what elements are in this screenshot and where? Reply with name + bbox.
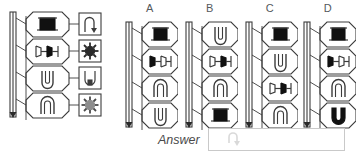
option-b-cell-1 — [202, 49, 238, 74]
stem-panel — [6, 8, 114, 126]
option-d-cell-2 — [320, 76, 356, 101]
vertical-slider[interactable] — [304, 22, 311, 128]
shape-double-spool-left-filled — [150, 56, 171, 67]
option-a-cell-1 — [142, 49, 178, 74]
shape-top-hat-filled — [271, 28, 290, 40]
answer-label: Answer — [158, 133, 200, 147]
shape-top-hat-filled — [37, 18, 58, 30]
shape-u-open-up — [42, 71, 53, 89]
option-b-label: B — [182, 2, 238, 14]
hook-arrow-icon — [79, 13, 101, 35]
shape-v-bold-filled — [332, 108, 345, 125]
option-c[interactable]: C — [242, 0, 298, 126]
mouse-pointer-icon — [225, 131, 245, 149]
stem-cell-0 — [26, 12, 101, 37]
stem-cell-3 — [26, 93, 101, 118]
shape-double-spool-right-filled — [210, 56, 231, 67]
option-d-cell-3 — [320, 103, 356, 128]
option-b-cell-2 — [202, 76, 238, 101]
shape-u-open-up — [155, 108, 166, 126]
shape-arch-open-down — [154, 80, 167, 98]
shape-u-open-up — [275, 54, 286, 72]
shape-double-spool-left-filled — [328, 56, 349, 67]
option-a-cell-0 — [142, 22, 178, 47]
option-b-cell-3 — [202, 103, 238, 128]
shape-arch-open-down — [214, 80, 227, 98]
shape-top-hat-filled — [211, 109, 230, 121]
stem-cell-1 — [26, 39, 101, 64]
option-c-cell-3 — [262, 103, 298, 128]
shape-u-open-up — [215, 27, 226, 45]
u-in-square-icon — [79, 67, 101, 89]
shape-top-hat-filled — [329, 28, 348, 40]
sunburst-grey-icon — [79, 94, 101, 116]
sunburst-dark-icon — [79, 40, 101, 62]
answer-row: Answer — [158, 128, 345, 151]
shape-double-spool-half-filled — [36, 46, 58, 57]
option-b[interactable]: B — [182, 0, 238, 126]
option-d-cell-1 — [320, 49, 356, 74]
option-c-cell-1 — [262, 49, 298, 74]
shape-arch-open-down — [332, 80, 345, 98]
vertical-slider[interactable] — [10, 12, 17, 118]
vertical-slider[interactable] — [126, 22, 133, 128]
shape-arch-open-down — [41, 97, 54, 115]
option-a-label: A — [122, 2, 178, 14]
option-d-label: D — [300, 2, 356, 14]
stem-cell-2 — [26, 66, 101, 91]
option-c-cell-0 — [262, 22, 298, 47]
shape-double-spool-right-filled — [270, 83, 291, 94]
option-c-cell-2 — [262, 76, 298, 101]
option-a[interactable]: A — [122, 0, 178, 126]
vertical-slider[interactable] — [186, 22, 193, 128]
answer-input[interactable] — [208, 128, 345, 151]
shape-top-hat-filled — [151, 28, 170, 40]
option-a-cell-2 — [142, 76, 178, 101]
option-d-cell-0 — [320, 22, 356, 47]
shape-arch-open-down — [274, 107, 287, 125]
option-a-cell-3 — [142, 103, 178, 128]
option-d[interactable]: D — [300, 0, 356, 126]
option-c-label: C — [242, 2, 298, 14]
option-b-cell-0 — [202, 22, 238, 47]
vertical-slider[interactable] — [246, 22, 253, 128]
